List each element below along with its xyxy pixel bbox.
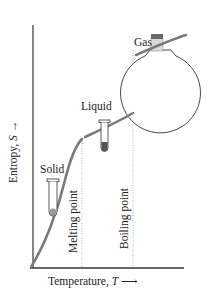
y-axis-label: Entropy, S → [8, 121, 20, 183]
test-tube-solid-icon [47, 179, 59, 216]
melting-point-label: Melting point [68, 190, 80, 253]
y-axis-arrow-icon: → [7, 121, 19, 133]
x-axis-arrow-icon: ⟶ [121, 275, 138, 287]
diagram-canvas [0, 0, 211, 295]
boiling-point-label: Boiling point [119, 188, 131, 249]
test-tube-liquid-icon [99, 120, 110, 152]
liquid-phase-curve [85, 113, 133, 137]
gas-label: Gas [134, 37, 152, 49]
round-flask-gas-icon [120, 34, 200, 133]
solid-label: Solid [40, 164, 64, 176]
x-axis-label: Temperature, T ⟶ [48, 276, 137, 288]
liquid-label: Liquid [81, 101, 112, 113]
